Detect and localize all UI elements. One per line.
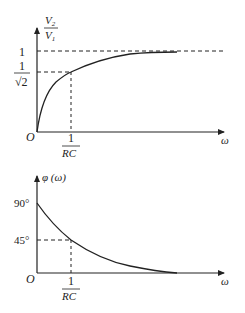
phase-curve xyxy=(37,203,177,273)
top-x-tick-cutoff: 1 RC xyxy=(61,131,80,159)
rc-highpass-frequency-response-diagram: V2 V1 1 1 √2 O 1 RC ω φ (ω) 90° 45° O 1 xyxy=(0,0,245,313)
phase-plot: φ (ω) 90° 45° O 1 RC ω xyxy=(14,171,229,302)
svg-text:RC: RC xyxy=(61,147,77,159)
svg-text:1: 1 xyxy=(19,59,25,73)
amplitude-curve xyxy=(37,52,177,132)
svg-text:1: 1 xyxy=(68,274,74,288)
svg-text:V1: V1 xyxy=(45,29,55,43)
bottom-origin-label: O xyxy=(26,272,35,286)
svg-text:V2: V2 xyxy=(45,14,56,28)
svg-text:RC: RC xyxy=(61,290,77,302)
bottom-y-tick-90: 90° xyxy=(14,197,29,209)
bottom-x-tick-cutoff: 1 RC xyxy=(61,274,80,302)
svg-text:√2: √2 xyxy=(15,75,28,89)
top-y-axis-label: V2 V1 xyxy=(44,14,58,43)
bottom-y-axis-label: φ (ω) xyxy=(42,171,66,184)
bottom-x-axis-label: ω xyxy=(221,275,229,287)
top-origin-label: O xyxy=(26,130,35,144)
svg-text:1: 1 xyxy=(68,131,74,145)
top-y-tick-inv-sqrt2: 1 √2 xyxy=(14,59,30,89)
amplitude-plot: V2 V1 1 1 √2 O 1 RC ω xyxy=(14,14,229,159)
bottom-y-tick-45: 45° xyxy=(14,234,29,246)
top-y-tick-1: 1 xyxy=(19,45,25,59)
top-x-axis-label: ω xyxy=(221,134,229,146)
